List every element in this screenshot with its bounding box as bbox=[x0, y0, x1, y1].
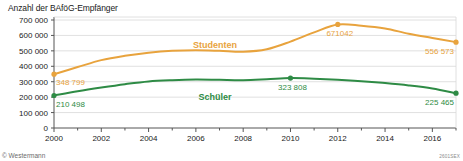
data-point-marker bbox=[453, 91, 458, 96]
data-point-marker bbox=[51, 72, 56, 77]
value-label: 348 799 bbox=[56, 78, 85, 87]
value-label: 225 465 bbox=[425, 98, 454, 107]
axis-lines bbox=[54, 17, 456, 128]
svg-text:2004: 2004 bbox=[140, 134, 158, 143]
copyright-notice: © Westermann bbox=[2, 152, 45, 159]
svg-text:200 000: 200 000 bbox=[19, 93, 48, 102]
svg-text:2012: 2012 bbox=[329, 134, 347, 143]
series-line-schüler bbox=[54, 78, 456, 95]
data-point-marker bbox=[453, 40, 458, 45]
svg-text:300 000: 300 000 bbox=[19, 78, 48, 87]
svg-text:100 000: 100 000 bbox=[19, 109, 48, 118]
y-axis-tick-labels: 0100 000200 000300 000400 000500 000600 … bbox=[19, 16, 48, 133]
svg-text:500 000: 500 000 bbox=[19, 47, 48, 56]
source-code-label: 2601SEX bbox=[439, 154, 460, 159]
value-label: 671042 bbox=[326, 29, 353, 38]
svg-text:2010: 2010 bbox=[282, 134, 300, 143]
svg-text:2008: 2008 bbox=[234, 134, 252, 143]
series-label-schüler: Schüler bbox=[198, 92, 232, 102]
svg-text:2016: 2016 bbox=[423, 134, 441, 143]
svg-text:700 000: 700 000 bbox=[19, 16, 48, 25]
series-label-studenten: Studenten bbox=[193, 40, 237, 50]
chart-figure: Anzahl der BAföG-Empfänger 0100 000200 0… bbox=[0, 0, 463, 161]
x-axis-ticks bbox=[54, 128, 456, 132]
svg-text:0: 0 bbox=[44, 124, 49, 133]
value-label: 556 573 bbox=[425, 47, 454, 56]
data-point-marker bbox=[288, 75, 293, 80]
series-lines bbox=[54, 24, 456, 95]
data-value-labels: 348 799671042556 573210 498323 808225 46… bbox=[56, 29, 455, 108]
svg-text:400 000: 400 000 bbox=[19, 62, 48, 71]
value-label: 323 808 bbox=[278, 83, 307, 92]
value-label: 210 498 bbox=[56, 100, 85, 109]
svg-text:2002: 2002 bbox=[92, 134, 110, 143]
svg-text:2000: 2000 bbox=[45, 134, 63, 143]
svg-text:600 000: 600 000 bbox=[19, 31, 48, 40]
x-axis-tick-labels: 200020022004200620082010201220142016 bbox=[45, 134, 442, 143]
line-chart-plot: 0100 000200 000300 000400 000500 000600 … bbox=[0, 0, 463, 161]
data-point-marker bbox=[335, 22, 340, 27]
series-name-labels: StudentenSchüler bbox=[193, 40, 237, 102]
grid-lines bbox=[54, 20, 456, 113]
svg-text:2006: 2006 bbox=[187, 134, 205, 143]
data-point-marker bbox=[51, 93, 56, 98]
svg-text:2014: 2014 bbox=[376, 134, 394, 143]
